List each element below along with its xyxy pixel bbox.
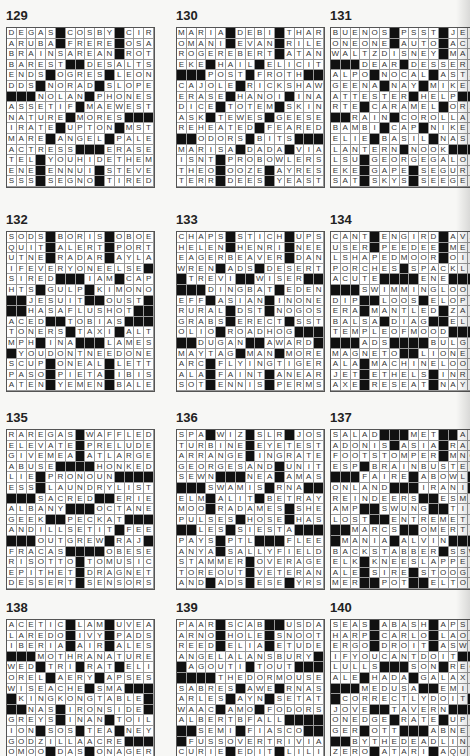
letter-cell: H xyxy=(226,673,236,684)
letter-cell: M xyxy=(265,102,275,113)
letter-cell: U xyxy=(95,472,105,483)
letter-cell: E xyxy=(134,525,144,536)
letter-cell: S xyxy=(370,547,380,558)
letter-cell: O xyxy=(216,70,226,81)
letter-cell: K xyxy=(275,81,285,92)
black-square xyxy=(216,176,226,187)
letter-cell: B xyxy=(429,338,439,349)
letter-cell: R xyxy=(304,349,314,360)
black-square xyxy=(144,472,154,483)
letter-cell: O xyxy=(76,28,86,39)
letter-cell: G xyxy=(134,451,144,462)
letter-cell: I xyxy=(134,715,144,726)
letter-cell: O xyxy=(400,296,410,307)
letter-cell: R xyxy=(216,49,226,60)
letter-cell: A xyxy=(95,274,105,285)
letter-cell: M xyxy=(105,557,115,568)
puzzle-number: 140 xyxy=(330,600,352,615)
letter-cell: L xyxy=(331,145,341,156)
letter-cell: T xyxy=(360,274,370,285)
letter-cell: O xyxy=(17,232,27,243)
letter-cell: S xyxy=(341,462,351,473)
black-square xyxy=(187,338,197,349)
black-square xyxy=(206,113,216,124)
letter-cell: R xyxy=(134,243,144,254)
letter-cell: G xyxy=(66,536,76,547)
letter-cell: I xyxy=(341,296,351,307)
letter-cell: T xyxy=(419,380,429,391)
letter-cell: L xyxy=(351,483,361,494)
letter-cell: L xyxy=(409,536,419,547)
letter-cell: E xyxy=(95,578,105,589)
letter-cell: I xyxy=(85,274,95,285)
letter-cell: L xyxy=(439,92,449,103)
letter-cell: R xyxy=(76,652,86,663)
letter-cell: T xyxy=(304,451,314,462)
black-square xyxy=(400,726,410,737)
black-square xyxy=(236,472,246,483)
letter-cell: S xyxy=(275,631,285,642)
letter-cell: L xyxy=(236,641,246,652)
puzzle-number: 130 xyxy=(176,8,198,23)
letter-cell: S xyxy=(275,694,285,705)
letter-cell: R xyxy=(380,145,390,156)
letter-cell: E xyxy=(134,705,144,716)
letter-cell: R xyxy=(390,102,400,113)
letter-cell: S xyxy=(206,515,216,526)
letter-cell: M xyxy=(125,123,135,134)
letter-cell: D xyxy=(236,264,246,275)
letter-cell: B xyxy=(36,39,46,50)
letter-cell: E xyxy=(341,370,351,381)
letter-cell: E xyxy=(265,568,275,579)
letter-cell: T xyxy=(66,317,76,328)
black-square xyxy=(46,134,56,145)
letter-cell: A xyxy=(314,92,324,103)
letter-cell: F xyxy=(216,359,226,370)
letter-cell: N xyxy=(76,694,86,705)
letter-cell: M xyxy=(216,557,226,568)
letter-cell: T xyxy=(400,306,410,317)
letter-cell: N xyxy=(390,145,400,156)
letter-cell: E xyxy=(36,631,46,642)
letter-cell: W xyxy=(85,430,95,441)
letter-cell: E xyxy=(27,515,37,526)
black-square xyxy=(429,70,439,81)
letter-cell: T xyxy=(449,652,459,663)
letter-cell: S xyxy=(255,176,265,187)
black-square xyxy=(95,494,105,505)
letter-cell: E xyxy=(134,92,144,103)
letter-cell: V xyxy=(246,39,256,50)
letter-cell: O xyxy=(341,451,351,462)
letter-cell: E xyxy=(85,49,95,60)
letter-cell: B xyxy=(331,547,341,558)
letter-cell: T xyxy=(449,504,459,515)
letter-cell: Y xyxy=(236,359,246,370)
letter-cell: G xyxy=(409,155,419,166)
letter-cell: W xyxy=(236,113,246,124)
letter-cell: D xyxy=(370,494,380,505)
letter-cell: M xyxy=(370,359,380,370)
letter-cell: S xyxy=(341,253,351,264)
letter-cell: L xyxy=(409,306,419,317)
letter-cell: S xyxy=(95,70,105,81)
black-square xyxy=(46,253,56,264)
letter-cell: S xyxy=(295,504,305,515)
letter-cell: O xyxy=(56,349,66,360)
letter-cell: E xyxy=(360,92,370,103)
letter-cell: C xyxy=(390,359,400,370)
letter-cell: A xyxy=(439,483,449,494)
letter-cell: T xyxy=(314,441,324,452)
letter-cell: A xyxy=(226,338,236,349)
letter-cell: A xyxy=(56,430,66,441)
letter-cell: A xyxy=(76,641,86,652)
letter-cell: E xyxy=(275,515,285,526)
letter-cell: F xyxy=(115,430,125,441)
letter-cell: I xyxy=(125,483,135,494)
letter-cell: E xyxy=(351,673,361,684)
letter-cell: R xyxy=(295,274,305,285)
letter-cell: N xyxy=(409,49,419,60)
black-square xyxy=(246,557,256,568)
letter-cell: A xyxy=(331,92,341,103)
letter-cell: A xyxy=(331,568,341,579)
letter-cell: O xyxy=(134,70,144,81)
